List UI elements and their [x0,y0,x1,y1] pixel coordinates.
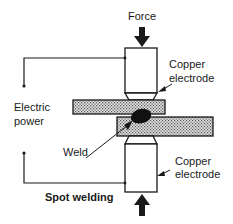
bottom-electrode-label-line1: Copper [175,155,211,167]
diagram-title: Spot welding [45,191,113,203]
bottom-electrode-label-line2: electrode [175,168,220,180]
electric-power-label-line1: Electric [14,101,50,113]
top-metal-sheet [73,100,165,114]
force-label: Force [128,10,156,22]
force-arrow-down-icon [134,27,150,47]
leader-top-electrode [158,84,172,92]
top-electrode-label-line1: Copper [169,58,205,70]
bottom-copper-electrode [125,136,157,192]
wire-terminal-top [22,84,25,87]
leader-bottom-electrode [157,170,170,176]
weld-label: Weld [63,146,88,158]
top-electrode-label-line2: electrode [169,72,214,84]
wire-junction-bottom [124,182,127,185]
top-copper-electrode [125,48,157,100]
wire-terminal-bottom [22,151,25,154]
wire-junction-top [124,57,127,60]
force-arrow-up-icon [134,194,150,216]
electric-power-label-line2: power [14,115,44,127]
